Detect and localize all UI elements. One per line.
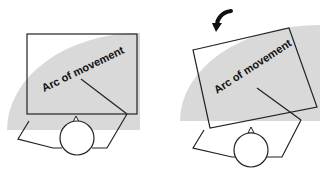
- left-arm: [193, 130, 236, 157]
- right-arm: [267, 120, 301, 157]
- panel-before: Arc of movement: [7, 33, 140, 155]
- head-icon: [60, 121, 94, 155]
- head-icon: [234, 133, 268, 167]
- diagram-canvas: Arc of movement Arc of movement: [0, 0, 327, 172]
- nose-icon: [248, 127, 254, 133]
- rotate-counterclockwise-arrow-icon: [212, 11, 231, 32]
- panel-after: Arc of movement: [180, 11, 320, 167]
